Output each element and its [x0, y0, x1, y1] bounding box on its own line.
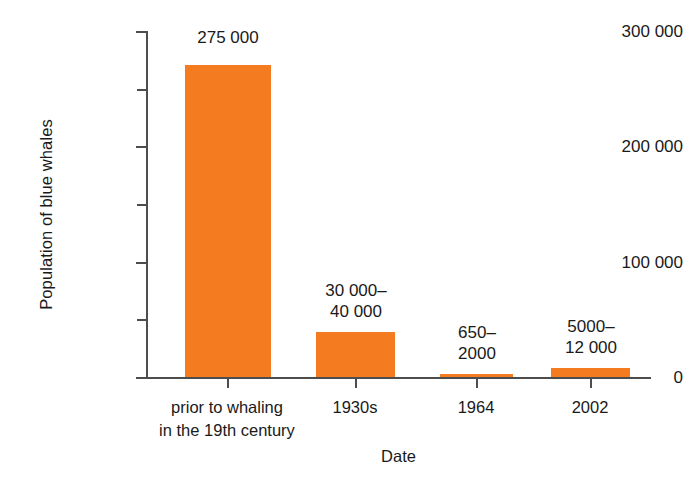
x-tick-1930s	[355, 378, 357, 388]
bar-2002	[551, 368, 630, 377]
bar-1964	[440, 374, 513, 377]
x-axis-title: Date	[146, 447, 651, 466]
bar-prior-to-whaling	[185, 65, 271, 377]
x-category-label-2002: 2002	[535, 396, 645, 419]
value-label-1930s: 30 000– 40 000	[296, 280, 416, 322]
bar-1930s	[316, 332, 395, 377]
x-category-label-1930s: 1930s	[300, 396, 410, 419]
value-label-2002: 5000– 12 000	[531, 316, 651, 358]
x-category-label-1964: 1964	[421, 396, 531, 419]
x-category-label-prior-to-whaling: prior to whaling in the 19th century	[132, 396, 322, 442]
x-axis-line	[146, 377, 651, 379]
x-tick-2002	[590, 378, 592, 388]
value-label-prior-to-whaling: 275 000	[168, 27, 288, 48]
y-axis-line	[146, 31, 148, 378]
y-tick-label-300000: 300 000	[551, 23, 683, 40]
x-tick-prior-to-whaling	[227, 378, 229, 388]
y-axis-title: Population of blue whales	[37, 75, 56, 355]
y-tick-label-200000: 200 000	[551, 138, 683, 155]
y-tick-label-100000: 100 000	[551, 254, 683, 271]
bar-chart: Population of blue whales 300 000 200 00…	[0, 0, 683, 487]
value-label-1964: 650– 2000	[417, 322, 537, 364]
x-tick-1964	[476, 378, 478, 388]
